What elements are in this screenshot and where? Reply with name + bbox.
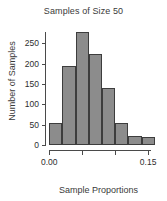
y-tick-label: 50 — [30, 120, 39, 130]
histogram-bar — [115, 123, 128, 145]
histogram-chart: Samples of Size 50 Number of Samples 050… — [0, 0, 167, 201]
chart-title: Samples of Size 50 — [0, 6, 167, 16]
y-tick-label: 200 — [25, 59, 39, 69]
y-tick-label: 100 — [25, 99, 39, 109]
bar-group — [46, 32, 160, 145]
x-tick-mark — [49, 150, 50, 155]
y-axis-label: Number of Samples — [7, 21, 17, 141]
histogram-bar — [49, 123, 62, 145]
x-tick-mark — [82, 150, 83, 155]
x-tick-mark — [148, 150, 149, 155]
x-axis-label: Sample Proportions — [30, 185, 167, 195]
histogram-bar — [142, 137, 155, 145]
x-tick-label: 0.00 — [41, 157, 58, 167]
y-tick-mark — [42, 145, 46, 146]
plot-area: 050100150200250 0.000.15 — [46, 28, 160, 146]
x-tick-label: 0.15 — [140, 157, 157, 167]
x-axis-spine — [49, 150, 151, 151]
y-tick-label: 150 — [25, 79, 39, 89]
y-tick-label: 250 — [25, 38, 39, 48]
x-axis: 0.000.15 — [46, 150, 160, 156]
x-tick-mark — [115, 150, 116, 155]
y-tick-label: 0 — [34, 140, 39, 150]
histogram-bar — [76, 32, 89, 145]
histogram-bar — [89, 54, 102, 145]
histogram-bar — [102, 88, 115, 145]
histogram-bar — [62, 66, 75, 145]
histogram-bar — [128, 136, 141, 145]
